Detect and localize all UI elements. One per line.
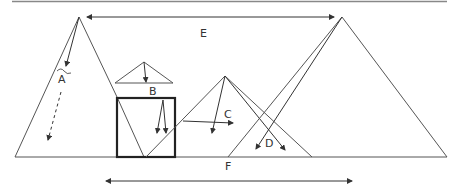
- arrow-box-1: [157, 100, 163, 133]
- label-f: F: [225, 161, 231, 172]
- label-a: A: [58, 74, 66, 85]
- left-triangle-inner-edge: [117, 97, 144, 157]
- arrow-d-right: [225, 76, 285, 150]
- highlight-box: [117, 98, 175, 157]
- dashed-arrow-a: [48, 92, 61, 140]
- arrow-box-2: [163, 100, 166, 133]
- label-e: E: [200, 28, 207, 39]
- label-b: B: [149, 86, 157, 97]
- arrow-c: [183, 121, 233, 123]
- arrow-d-left: [256, 17, 342, 149]
- label-c: C: [224, 109, 232, 120]
- arrow-b-top: [144, 62, 146, 82]
- right-triangle: [228, 17, 447, 157]
- label-d: D: [265, 138, 273, 149]
- arrow-middle-down: [212, 76, 225, 133]
- left-triangle: [15, 17, 117, 157]
